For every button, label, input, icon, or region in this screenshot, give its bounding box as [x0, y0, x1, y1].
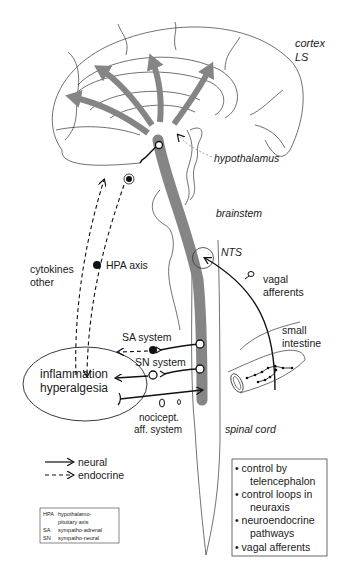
hypothalamic-axon: [140, 147, 156, 163]
bullet-3-line-2: pathways: [250, 527, 294, 539]
summary-box: • control by telencephalon • control loo…: [232, 459, 327, 556]
abbr-hpa-text-2: pituitary axis: [58, 519, 89, 525]
nociceptive-ganglion-small: [178, 400, 181, 405]
label-hpa-axis: HPA axis: [106, 259, 148, 271]
label-hypothalamus: hypothalamus: [214, 152, 280, 164]
label-nocicept: nocicept.: [139, 412, 179, 423]
sn-spinal-node: [196, 365, 204, 373]
legend-endocrine-label: endocrine: [78, 469, 124, 481]
label-cortex: cortex: [295, 37, 325, 49]
hypothalamus-node: [156, 142, 163, 149]
nociceptive-ganglion: [160, 399, 165, 407]
sa-endocrine-arrow: [118, 351, 148, 352]
cytokine-pathway: [76, 180, 104, 375]
label-afferents: afferents: [263, 286, 304, 298]
abbr-sn: SN: [43, 535, 51, 541]
bullet-1-line-2: telencephalon: [250, 475, 316, 487]
legend-neural-label: neural: [78, 456, 107, 468]
abbreviations-box: HPA hypothalamo- pituitary axis SA sympa…: [40, 508, 119, 543]
label-intestine: intestine: [282, 337, 321, 349]
label-nts: NTS: [221, 246, 242, 258]
sn-ganglion-synapse: [160, 371, 165, 377]
sn-ganglion-node: [149, 371, 157, 379]
sa-adrenal-node: [149, 346, 157, 354]
abbr-sn-text: sympatho-neural: [58, 535, 99, 541]
vagal-ganglion: [245, 272, 254, 280]
hpa-axis-node: [93, 261, 101, 269]
abbr-hpa-text: hypothalamo-: [58, 511, 91, 517]
label-other: other: [30, 276, 54, 288]
diagram-canvas: cortex LS hypothalamus brainstem NTS vag…: [0, 0, 345, 577]
sn-neural-arrow: [116, 376, 148, 378]
label-hyperalgesia: hyperalgesia: [40, 381, 108, 395]
nociceptive-afferent-pathway: [120, 390, 202, 399]
abbr-hpa: HPA: [43, 511, 54, 517]
sn-system-pathway: [164, 369, 200, 374]
nociceptor-ending: [118, 393, 120, 405]
sa-system-pathway: [160, 344, 200, 350]
telencephalic-projection-arrows: [72, 60, 210, 133]
pituitary: [124, 174, 134, 184]
bullet-2-line-2: neuraxis: [250, 501, 290, 513]
label-sn-system: SN system: [135, 356, 186, 368]
bullet-1-line-1: • control by: [235, 462, 288, 474]
bullet-2-line-1: • control loops in: [235, 488, 312, 500]
label-brainstem: brainstem: [216, 207, 262, 219]
legend: neural endocrine: [45, 456, 124, 481]
bullet-3-line-1: • neuroendocrine: [235, 514, 315, 526]
label-cytokines: cytokines: [30, 263, 74, 275]
label-vagal: vagal: [263, 273, 288, 285]
label-ls: LS: [295, 51, 309, 63]
hypothalamus-pointer: [178, 135, 212, 157]
label-inflammation: inflammation: [40, 367, 108, 381]
abbr-sa: SA: [43, 527, 51, 533]
sa-spinal-node: [196, 340, 204, 348]
label-sa-system: SA system: [122, 331, 172, 343]
abbr-sa-text: sympatho-adrenal: [58, 527, 102, 533]
label-aff-system: aff. system: [134, 424, 182, 435]
label-spinal-cord: spinal cord: [225, 423, 277, 435]
label-small: small: [282, 324, 307, 336]
bullet-4-line-1: • vagal afferents: [235, 541, 310, 553]
